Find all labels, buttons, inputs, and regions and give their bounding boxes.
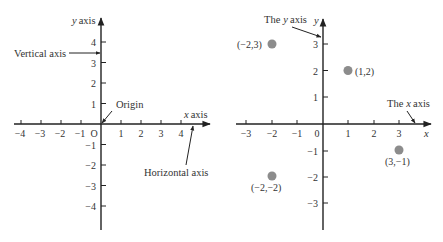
tick-label: 2 — [372, 128, 377, 139]
tick-label: −4 — [15, 128, 26, 139]
tick-label: 2 — [313, 66, 318, 77]
tick-label: 2 — [139, 128, 144, 139]
tick-label: 0 — [315, 128, 320, 139]
tick-label: 2 — [91, 78, 96, 89]
tick-label: −1 — [85, 140, 96, 151]
tick-label: 4 — [91, 37, 96, 48]
tick-label: 3 — [313, 39, 318, 50]
tick-label: −3 — [241, 128, 252, 139]
origin-tick-label: O — [90, 128, 97, 139]
point — [395, 146, 404, 155]
point — [344, 66, 353, 75]
tick-label: −4 — [85, 201, 96, 212]
right-graph: −3 −2 −1 0 1 2 3 3 2 1 −1 −2 −3 y x — [236, 14, 431, 230]
point — [268, 172, 277, 181]
point-label: (−2,3) — [237, 39, 262, 51]
origin-arrow — [102, 111, 112, 123]
figure: −4 −3 −2 −1 O 1 2 3 4 4 3 2 1 −1 − — [0, 0, 443, 242]
left-graph: −4 −3 −2 −1 O 1 2 3 4 4 3 2 1 −1 − — [14, 15, 210, 230]
tick-label: −1 — [75, 128, 86, 139]
tick-label: −2 — [85, 160, 96, 171]
left-y-axis-label: yaxis — [71, 15, 96, 26]
right-x-axis-label: x — [423, 128, 429, 139]
tick-label: −3 — [35, 128, 46, 139]
y-axis-caption-arrow — [292, 27, 321, 37]
point — [268, 40, 277, 49]
data-points — [268, 40, 404, 181]
tick-label: −2 — [267, 128, 278, 139]
tick-label: 4 — [179, 128, 184, 139]
tick-label: 1 — [119, 128, 124, 139]
x-axis-caption: Thexaxis — [387, 98, 430, 109]
tick-label: 1 — [346, 128, 351, 139]
origin-annotation: Origin — [116, 99, 144, 110]
horizontal-axis-annotation: Horizontal axis — [144, 167, 208, 178]
right-y-axis-label: y — [313, 15, 319, 26]
tick-label: −2 — [55, 128, 66, 139]
y-axis-caption: Theyaxis — [264, 14, 307, 25]
tick-label: −1 — [292, 128, 303, 139]
tick-label: −3 — [85, 181, 96, 192]
right-x-tick-labels: −3 −2 −1 0 1 2 3 — [241, 128, 402, 139]
tick-label: −1 — [307, 146, 318, 157]
horizontal-axis-arrow — [186, 126, 193, 165]
left-x-axis-label: xaxis — [183, 109, 208, 120]
point-label: (1,2) — [355, 66, 374, 78]
tick-label: 3 — [159, 128, 164, 139]
tick-label: 3 — [91, 58, 96, 69]
x-axis-caption-arrow — [407, 111, 415, 123]
point-label: (−2,−2) — [251, 182, 281, 194]
tick-label: −3 — [307, 198, 318, 209]
left-x-tick-labels: −4 −3 −2 −1 O 1 2 3 4 — [15, 128, 184, 139]
tick-label: 1 — [91, 99, 96, 110]
point-label: (3,−1) — [385, 156, 410, 168]
vertical-axis-annotation: Vertical axis — [14, 48, 66, 59]
tick-label: 3 — [397, 128, 402, 139]
tick-label: −2 — [307, 172, 318, 183]
tick-label: 1 — [313, 92, 318, 103]
